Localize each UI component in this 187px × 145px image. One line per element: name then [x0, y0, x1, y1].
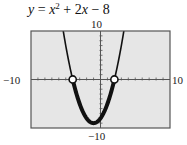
open-circle-marker-1	[69, 76, 76, 83]
graph-window	[0, 0, 187, 145]
open-circle-marker-2	[111, 76, 118, 83]
